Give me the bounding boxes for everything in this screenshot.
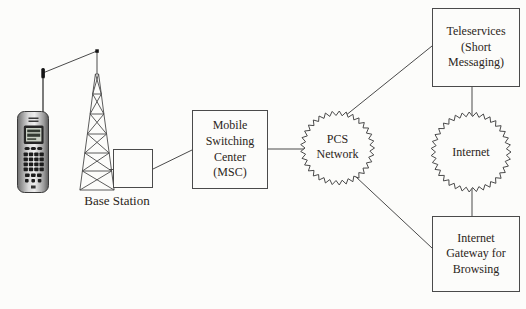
phone-antenna-tip — [41, 68, 45, 79]
msc-label: Mobile Switching Center (MSC) — [199, 118, 261, 180]
internet-label: Internet — [441, 145, 501, 160]
phone-softkey — [25, 147, 30, 150]
phone-speaker-line — [29, 118, 39, 120]
phone-screen-text — [27, 130, 40, 133]
basestation-to-msc-line — [153, 150, 192, 169]
phone-softkey — [37, 147, 42, 150]
phone-speaker-line — [29, 121, 39, 123]
base-station-caption: Base Station — [76, 193, 158, 209]
internet-gateway-box: Internet Gateway for Browsing — [432, 216, 520, 292]
pcs-network-label: PCS Network — [307, 132, 368, 162]
wireless-link-line — [44, 51, 97, 73]
phone-screen-text — [27, 134, 40, 137]
network-diagram: Mobile Switching Center (MSC) Teleservic… — [0, 0, 526, 309]
phone-screen-text — [27, 138, 36, 140]
tower-antenna-dot — [95, 49, 99, 53]
teleservices-box: Teleservices (Short Messaging) — [432, 8, 520, 87]
msc-box: Mobile Switching Center (MSC) — [192, 110, 268, 189]
base-station-box — [113, 149, 153, 188]
base-station-tower — [80, 74, 114, 190]
phone-port — [31, 186, 36, 189]
teleservices-label: Teleservices (Short Messaging) — [439, 24, 513, 71]
internet-gateway-label: Internet Gateway for Browsing — [439, 231, 513, 278]
pcs-to-teleservices-line — [345, 46, 432, 116]
mobile-phone — [18, 78, 49, 193]
phone-softkey — [31, 147, 36, 150]
